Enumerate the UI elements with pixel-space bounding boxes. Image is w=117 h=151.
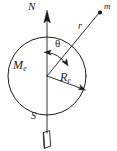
- earth-mass-subscript: e: [23, 64, 26, 73]
- north-pole-label: N: [28, 1, 35, 12]
- physics-diagram: N S m r θ Me Re: [0, 0, 117, 151]
- south-pole-label: S: [31, 111, 36, 121]
- mass-label: m: [104, 2, 111, 11]
- earth-radius-subscript: e: [68, 76, 71, 85]
- earth-mass-symbol: M: [13, 58, 23, 72]
- earth-radius-symbol: R: [60, 70, 67, 84]
- earth-radius-label: Re: [60, 71, 71, 84]
- earth-mass-label: Me: [13, 59, 27, 72]
- angle-label: θ: [55, 38, 60, 49]
- axis-tail-edge: [44, 133, 45, 149]
- mass-point-marker: [98, 10, 102, 14]
- distance-label: r: [78, 21, 82, 31]
- diagram-canvas: [0, 0, 117, 151]
